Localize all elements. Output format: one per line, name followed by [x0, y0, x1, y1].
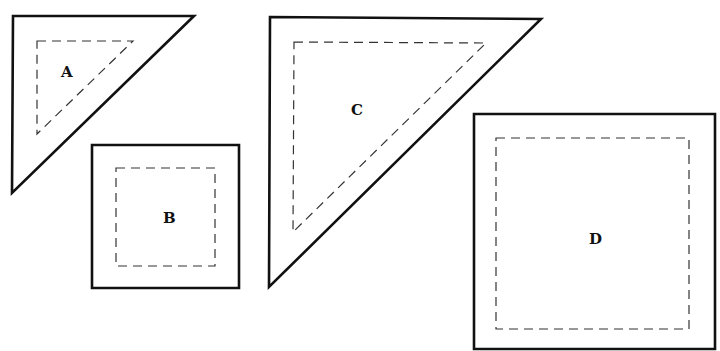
- shape-c-label: C: [351, 101, 363, 119]
- shape-c-seam-line: [293, 42, 486, 232]
- shape-a-label: A: [60, 63, 73, 81]
- shape-diagram: A B C D: [0, 0, 720, 351]
- shape-a-outline: [12, 16, 194, 193]
- shape-b-label: B: [163, 209, 176, 227]
- shape-d-label: D: [589, 230, 602, 248]
- shape-b: B: [92, 145, 239, 288]
- shape-d: D: [474, 114, 715, 349]
- shape-a: A: [12, 16, 194, 193]
- shape-c-outline: [269, 17, 541, 287]
- shape-c: C: [269, 17, 541, 287]
- shape-a-seam-line: [37, 41, 133, 134]
